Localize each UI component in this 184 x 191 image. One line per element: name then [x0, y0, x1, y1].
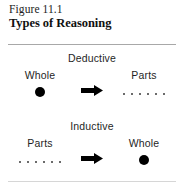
part-dot — [163, 93, 165, 95]
footer-divider — [8, 181, 176, 182]
dot-row-icon — [19, 158, 61, 163]
diagram-row-inductive: Parts Whole — [0, 137, 184, 173]
part-dot — [43, 161, 45, 163]
header-divider — [8, 44, 176, 45]
parts-glyph — [108, 83, 180, 101]
part-dot — [147, 93, 149, 95]
part-dot — [139, 93, 141, 95]
part-dot — [19, 161, 21, 163]
node-label: Parts — [108, 69, 180, 82]
figure-container: Figure 11.1 Types of Reasoning Deductive… — [0, 0, 184, 191]
node-deductive-target: Parts — [108, 69, 180, 101]
node-label: Whole — [108, 137, 180, 150]
solid-circle-icon — [139, 155, 149, 165]
arrow-inductive — [72, 151, 112, 165]
part-dot — [155, 93, 157, 95]
parts-glyph — [4, 151, 76, 169]
arrow-deductive — [72, 83, 112, 97]
node-label: Whole — [4, 69, 76, 82]
whole-glyph — [108, 151, 180, 169]
node-inductive-target: Whole — [108, 137, 180, 169]
figure-header: Figure 11.1 Types of Reasoning — [9, 3, 179, 31]
part-dot — [35, 161, 37, 163]
dot-row-icon — [123, 90, 165, 95]
solid-circle-icon — [35, 87, 45, 97]
figure-number: Figure 11.1 — [9, 3, 179, 16]
section-heading-inductive: Inductive — [0, 120, 184, 132]
section-heading-deductive: Deductive — [0, 52, 184, 64]
part-dot — [51, 161, 53, 163]
whole-glyph — [4, 83, 76, 101]
part-dot — [27, 161, 29, 163]
right-block-arrow-icon — [81, 85, 103, 96]
part-dot — [131, 93, 133, 95]
node-label: Parts — [4, 137, 76, 150]
node-inductive-source: Parts — [4, 137, 76, 169]
node-deductive-source: Whole — [4, 69, 76, 101]
diagram-row-deductive: Whole Parts — [0, 69, 184, 105]
part-dot — [59, 161, 61, 163]
right-block-arrow-icon — [81, 153, 103, 164]
part-dot — [123, 93, 125, 95]
figure-title: Types of Reasoning — [9, 16, 179, 31]
